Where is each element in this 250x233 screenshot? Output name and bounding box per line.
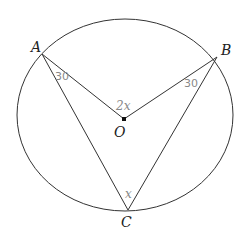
segment-AO — [42, 54, 124, 119]
angle-label-OAC: 30 — [55, 70, 69, 83]
angle-label-ACB: x — [125, 187, 132, 201]
angle-label-AOB: 2x — [115, 99, 131, 113]
center-dot — [122, 117, 126, 121]
circle-diagram: A B C O 30 30 2x x — [0, 0, 250, 233]
circle — [17, 19, 233, 211]
label-C: C — [121, 214, 132, 230]
segment-BO — [124, 57, 217, 119]
label-B: B — [220, 42, 231, 58]
label-A: A — [29, 39, 41, 55]
label-O: O — [114, 124, 126, 140]
segment-BC — [128, 57, 217, 210]
angle-label-OBC: 30 — [184, 77, 198, 90]
